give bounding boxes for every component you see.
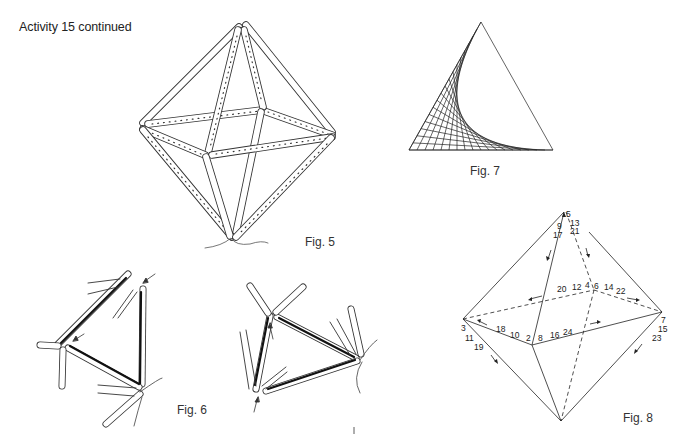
svg-text:20: 20 (557, 284, 567, 294)
svg-text:24: 24 (563, 327, 573, 337)
svg-text:18: 18 (496, 324, 506, 334)
svg-text:21: 21 (570, 226, 580, 236)
svg-text:19: 19 (474, 342, 484, 352)
fig8-threading-diagram: 9 17 5 13 21 20 12 4 6 14 22 3 11 19 18 … (0, 0, 687, 439)
svg-text:17: 17 (553, 230, 563, 240)
svg-text:12: 12 (572, 282, 582, 292)
fig8-caption: Fig. 8 (623, 411, 653, 425)
svg-text:22: 22 (616, 286, 626, 296)
svg-text:23: 23 (652, 333, 662, 343)
svg-text:2: 2 (526, 333, 531, 343)
svg-text:8: 8 (538, 333, 543, 343)
svg-text:3: 3 (461, 323, 466, 333)
svg-text:10: 10 (510, 330, 520, 340)
svg-text:16: 16 (550, 330, 560, 340)
svg-text:4: 4 (585, 280, 590, 290)
svg-text:14: 14 (604, 282, 614, 292)
svg-text:11: 11 (465, 333, 474, 343)
svg-text:6: 6 (594, 281, 599, 291)
